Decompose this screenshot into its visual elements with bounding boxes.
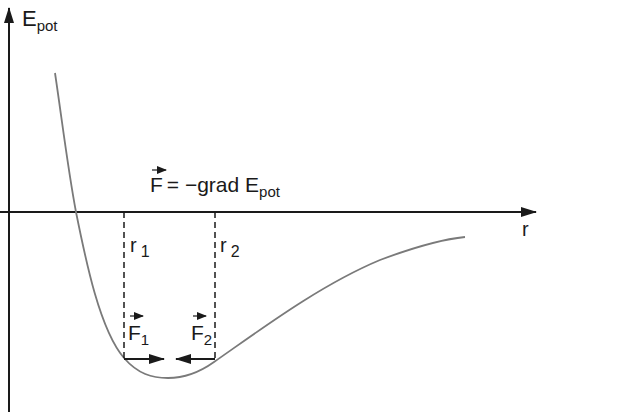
y-axis-label: Epot [22, 6, 58, 34]
marker-r1-label: r1 [130, 234, 150, 260]
svg-text:F1: F1 [128, 321, 149, 348]
x-axis-label: r [522, 218, 529, 240]
marker-r2-label: r2 [220, 234, 240, 260]
formula: F= −grad Epot [150, 170, 281, 200]
force-f2: F2 [176, 316, 215, 359]
potential-diagram: Epot r F= −grad Epot r1 r2 F1 F2 [0, 0, 627, 412]
potential-curve [55, 73, 465, 378]
force-f1: F1 [124, 316, 164, 359]
svg-text:F2: F2 [191, 321, 212, 348]
svg-text:F= −grad Epot: F= −grad Epot [150, 173, 281, 200]
